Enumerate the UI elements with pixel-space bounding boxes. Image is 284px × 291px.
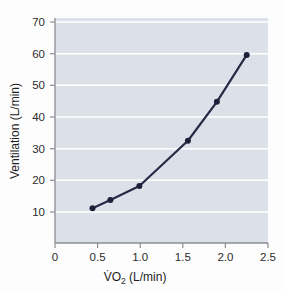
x-tick-label-0: 0	[52, 251, 58, 263]
x-axis-title-text: V̇O2 (L/min)	[104, 270, 167, 286]
y-tick-label-70: 70	[32, 16, 45, 28]
x-tick-label-0-5: 0.5	[90, 251, 106, 263]
x-tick-label-1-5: 1.5	[175, 251, 191, 263]
y-tick-label-20: 20	[32, 174, 45, 186]
x-axis-title-prefix: V̇O	[104, 270, 121, 284]
x-tick-label-1-0: 1.0	[132, 251, 148, 263]
data-point-marker	[136, 183, 142, 189]
chart-figure: 70 60 50 40 30 20 10 0 0.5 1.0 1.5 2.0 2…	[0, 0, 284, 291]
y-axis-title: Ventilation (L/min)	[8, 83, 22, 179]
x-axis-title-suffix: (L/min)	[126, 270, 167, 284]
data-point-marker	[107, 197, 113, 203]
x-tick-label-2-5: 2.5	[260, 251, 276, 263]
y-tick-label-40: 40	[32, 111, 45, 123]
data-point-marker	[89, 205, 95, 211]
y-tick-label-10: 10	[32, 206, 45, 218]
x-axis-title: V̇O2 (L/min)	[104, 270, 167, 286]
data-point-marker	[185, 138, 191, 144]
ventilation-vo2-line-chart: 70 60 50 40 30 20 10 0 0.5 1.0 1.5 2.0 2…	[0, 0, 284, 291]
y-tick-label-30: 30	[32, 143, 45, 155]
y-tick-label-50: 50	[32, 79, 45, 91]
plot-area-background	[55, 18, 268, 243]
data-point-marker	[214, 99, 220, 105]
y-tick-label-60: 60	[32, 48, 45, 60]
data-point-marker	[244, 52, 250, 58]
x-tick-label-2-0: 2.0	[217, 251, 233, 263]
